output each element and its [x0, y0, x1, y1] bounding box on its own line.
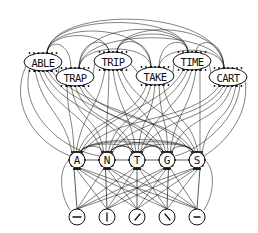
word-letter-edge	[108, 84, 151, 153]
letter-node-g: G	[158, 151, 176, 169]
feature-node-f5	[189, 209, 205, 225]
word-adjacent-edge	[130, 64, 138, 73]
feature-letter-edge	[107, 168, 166, 209]
letter-letter-edge	[80, 142, 164, 153]
word-letter-edge	[106, 69, 109, 153]
word-adjacent-edge	[209, 64, 211, 74]
word-node-trip: TRIP	[94, 51, 132, 71]
word-node-label: TRAP	[64, 72, 87, 84]
word-node-time: TIME	[173, 51, 211, 71]
feature-letter-edge	[80, 168, 197, 209]
word-node-label: TAKE	[144, 71, 167, 83]
letter-node-label: T	[134, 154, 141, 167]
connection-edges	[20, 19, 245, 210]
letter-letter-edge	[110, 142, 194, 153]
word-node-able: ABLE	[24, 52, 62, 72]
letter-node-label: A	[74, 154, 81, 167]
word-node-label: TRIP	[102, 56, 125, 68]
letter-node-label: N	[104, 154, 111, 167]
word-letter-edge	[202, 85, 236, 153]
letter-node-s: S	[188, 151, 206, 169]
word-letter-edge	[142, 85, 228, 153]
feature-level-nodes	[69, 209, 205, 225]
letter-node-n: N	[98, 151, 116, 169]
word-node-label: CART	[217, 72, 241, 84]
feature-node-f1	[69, 209, 85, 225]
word-node-label: ABLE	[32, 57, 55, 69]
letter-node-t: T	[128, 151, 146, 169]
feature-node-f4	[159, 209, 175, 225]
letter-node-label: G	[164, 154, 171, 167]
feature-letter-edge	[77, 168, 194, 209]
feature-letter-edge	[197, 168, 200, 209]
word-node-take: TAKE	[136, 66, 174, 86]
feature-letter-edge	[74, 168, 77, 209]
feature-node-f3	[129, 209, 145, 225]
word-node-trap: TRAP	[56, 67, 94, 87]
word-node-label: TIME	[181, 56, 204, 68]
letter-node-a: A	[68, 151, 86, 169]
letter-node-label: S	[194, 154, 201, 167]
word-node-cart: CART	[209, 67, 247, 87]
interactive-activation-network-diagram: ABLETRAPTRIPTAKETIMECART ANTGS	[0, 0, 258, 233]
feature-node-f2	[99, 209, 115, 225]
